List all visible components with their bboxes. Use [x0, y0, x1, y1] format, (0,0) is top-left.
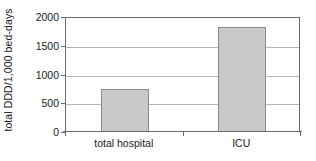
y-axis-title-label: total DDD/1,000 bed-days — [2, 8, 14, 131]
y-axis-tick-mark — [61, 103, 66, 104]
y-axis-tick-label: 500 — [41, 97, 59, 109]
x-axis-tick-label: ICU — [232, 137, 250, 149]
x-axis-tick-label: total hospital — [94, 137, 153, 149]
bar — [218, 27, 266, 132]
y-axis-tick-mark — [61, 46, 66, 47]
y-axis-tick-mark — [61, 75, 66, 76]
y-axis-title: total DDD/1,000 bed-days — [0, 0, 16, 140]
x-axis-end-tick — [300, 132, 301, 136]
y-axis-tick-mark — [61, 17, 66, 18]
x-axis-tick-mark — [183, 132, 184, 136]
y-axis-tick-labels: 0500100015002000 — [18, 12, 62, 138]
bar-chart: total DDD/1,000 bed-days 050010001500200… — [0, 0, 316, 161]
plot-area — [65, 17, 300, 132]
y-axis-tick-label: 1000 — [36, 69, 59, 81]
y-axis-tick-label: 2000 — [36, 11, 59, 23]
bar — [101, 89, 149, 132]
y-axis-tick-label: 0 — [53, 126, 59, 138]
y-axis-tick-label: 1500 — [36, 40, 59, 52]
x-axis-end-tick — [65, 132, 66, 136]
